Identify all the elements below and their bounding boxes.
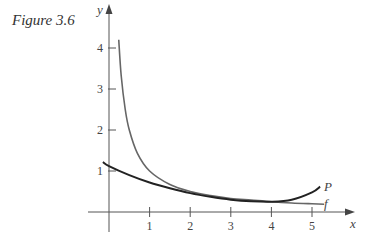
curve-f-label: f: [324, 196, 330, 211]
x-tick-label: 4: [268, 219, 274, 233]
y-tick-label: 4: [97, 41, 103, 55]
y-tick-label: 3: [97, 82, 103, 96]
x-axis-arrow-icon: [345, 209, 355, 216]
y-tick-label: 2: [97, 123, 103, 137]
x-tick-label: 5: [309, 219, 315, 233]
plot-area: 123451234 y x P f: [0, 0, 376, 244]
y-axis-label: y: [95, 2, 103, 17]
x-tick-label: 1: [147, 219, 153, 233]
x-axis-label: x: [349, 216, 356, 231]
x-tick-label: 3: [228, 219, 234, 233]
x-tick-label: 2: [187, 219, 193, 233]
ticks: 123451234: [97, 41, 315, 233]
y-tick-label: 1: [97, 164, 103, 178]
curve-f: [119, 40, 324, 204]
curve-P-label: P: [323, 179, 332, 194]
y-axis-arrow-icon: [106, 4, 113, 14]
